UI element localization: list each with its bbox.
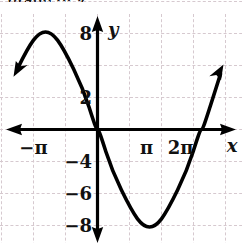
- y-tick-label-m8: −8: [64, 215, 92, 236]
- y-axis-label: y: [107, 19, 120, 40]
- graph-figure: graph of y: [0, 0, 242, 243]
- y-tick-label-m4: −4: [64, 151, 92, 172]
- y-tick-label-m6: −6: [64, 183, 92, 204]
- x-axis-label: x: [226, 135, 238, 156]
- y-tick-label-2: 2: [79, 87, 92, 108]
- x-tick-label-pi: π: [140, 137, 153, 158]
- x-tick-label-2pi: 2π: [168, 137, 194, 158]
- coordinate-plane: 8 2 −4 −6 −8 −π π 2π y x: [0, 0, 242, 243]
- y-tick-label-8: 8: [79, 23, 92, 44]
- x-tick-label-neg-pi: −π: [19, 137, 47, 158]
